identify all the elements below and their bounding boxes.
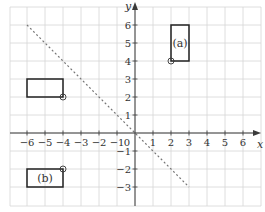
tick-marks: −6−5−4−3−2−10123456−3−2−1123456 — [20, 20, 247, 193]
x-tick-label: 3 — [186, 137, 192, 148]
shape-label: (b) — [37, 172, 53, 185]
x-tick-label: −4 — [56, 137, 71, 148]
y-tick-label: 1 — [125, 110, 131, 121]
coordinate-plane: x y −6−5−4−3−2−10123456−3−2−1123456 (a)(… — [0, 0, 265, 212]
x-axis-label: x — [257, 138, 264, 151]
x-tick-label: −5 — [38, 137, 53, 148]
x-tick-label: 1 — [150, 137, 156, 148]
y-tick-label: −1 — [116, 146, 131, 157]
x-tick-label: −6 — [20, 137, 35, 148]
y-tick-label: 4 — [125, 56, 131, 67]
x-tick-label: −2 — [92, 137, 107, 148]
x-tick-label: 6 — [240, 137, 246, 148]
x-axis-arrow-icon — [253, 130, 261, 136]
y-tick-label: 2 — [125, 92, 131, 103]
x-tick-label: −3 — [74, 137, 89, 148]
y-tick-label: 6 — [125, 20, 131, 31]
y-tick-label: −2 — [116, 164, 131, 175]
rectangle-b: (b) — [27, 166, 66, 187]
rectangle-a: (a) — [168, 25, 189, 64]
y-tick-label: −3 — [116, 182, 131, 193]
dashed-reflection-line — [27, 25, 189, 187]
x-tick-label: 5 — [222, 137, 228, 148]
shape-label: (a) — [172, 37, 187, 50]
x-tick-label: 2 — [168, 137, 174, 148]
y-axis-arrow-icon — [132, 2, 138, 10]
y-tick-label: 3 — [125, 74, 131, 85]
y-tick-label: 5 — [125, 38, 131, 49]
x-tick-label: 4 — [204, 137, 210, 148]
rectangle-original — [27, 79, 66, 100]
y-axis-label: y — [124, 0, 132, 13]
